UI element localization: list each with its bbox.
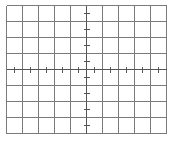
oscilloscope-graticule <box>0 0 181 146</box>
graticule-grid <box>0 0 181 146</box>
